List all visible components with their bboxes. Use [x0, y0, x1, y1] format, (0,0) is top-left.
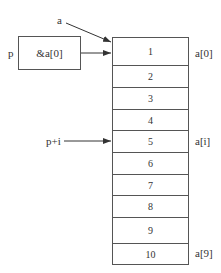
array-cell: 10	[113, 244, 188, 265]
offset-pointer-label: p+i	[46, 135, 61, 147]
array-cell: 7	[113, 175, 188, 196]
array-cell: 8	[113, 196, 188, 218]
array-name-label: a	[57, 14, 62, 26]
array-cell: 4	[113, 110, 188, 131]
index-label-last: a[9]	[195, 247, 213, 259]
pointer-value: &a[0]	[36, 47, 62, 59]
index-label-middle: a[i]	[195, 135, 210, 147]
array-cell: 6	[113, 153, 188, 175]
array-cell: 1	[113, 38, 188, 66]
array-cell: 2	[113, 66, 188, 88]
pointer-box: &a[0]	[18, 36, 81, 70]
array-cell: 9	[113, 218, 188, 244]
index-label-first: a[0]	[195, 47, 213, 59]
array-box: 1 2 3 4 5 6 7 8 9 10	[112, 37, 189, 265]
pointer-name-label: p	[8, 47, 14, 59]
array-cell: 3	[113, 88, 188, 110]
array-cell: 5	[113, 131, 188, 153]
